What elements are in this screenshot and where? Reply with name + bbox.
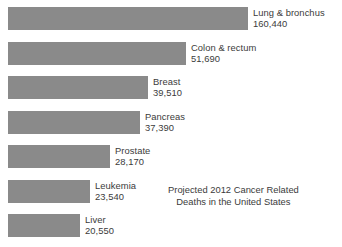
bar-row: Breast39,510	[0, 76, 182, 99]
bar-value-label: 51,690	[191, 54, 256, 64]
bar-label-group: Breast39,510	[153, 77, 182, 97]
chart-annotation: Projected 2012 Cancer Related Deaths in …	[168, 184, 299, 208]
annotation-line-2: Deaths in the United States	[168, 196, 299, 208]
bar	[8, 180, 90, 203]
bar	[8, 214, 80, 237]
bar-category-label: Leukemia	[95, 181, 136, 191]
bar-category-label: Lung & bronchus	[253, 8, 325, 18]
bar-category-label: Liver	[85, 215, 114, 225]
bar	[8, 42, 186, 65]
bar-category-label: Colon & rectum	[191, 43, 256, 53]
bar-label-group: Pancreas37,390	[145, 112, 185, 132]
bar-category-label: Breast	[153, 77, 182, 87]
bar-label-group: Prostate28,170	[115, 146, 150, 166]
bar	[8, 145, 110, 168]
bar-value-label: 160,440	[253, 19, 325, 29]
bar-row: Colon & rectum51,690	[0, 42, 256, 65]
bar-value-label: 37,390	[145, 123, 185, 133]
bar-row: Liver20,550	[0, 214, 114, 237]
bar-label-group: Lung & bronchus160,440	[253, 8, 325, 28]
bar-category-label: Prostate	[115, 146, 150, 156]
bar-row: Pancreas37,390	[0, 111, 185, 134]
bar	[8, 111, 140, 134]
bar-value-label: 28,170	[115, 157, 150, 167]
bar-row: Prostate28,170	[0, 145, 150, 168]
bar	[8, 76, 148, 99]
bar-row: Lung & bronchus160,440	[0, 7, 325, 30]
bar-label-group: Liver20,550	[85, 215, 114, 235]
bar-value-label: 20,550	[85, 226, 114, 236]
bar-row: Leukemia23,540	[0, 180, 136, 203]
bar	[8, 7, 248, 30]
bar-category-label: Pancreas	[145, 112, 185, 122]
bar-value-label: 39,510	[153, 88, 182, 98]
bar-label-group: Colon & rectum51,690	[191, 43, 256, 63]
cancer-deaths-bar-chart: Lung & bronchus160,440Colon & rectum51,6…	[0, 0, 342, 247]
bar-value-label: 23,540	[95, 192, 136, 202]
annotation-line-1: Projected 2012 Cancer Related	[168, 184, 299, 196]
bar-label-group: Leukemia23,540	[95, 181, 136, 201]
